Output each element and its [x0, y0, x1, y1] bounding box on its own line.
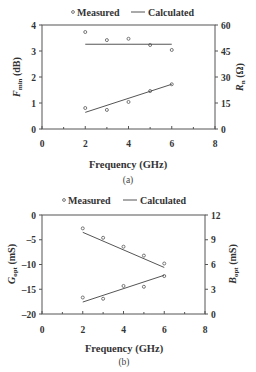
x-tick-label: 6	[169, 139, 174, 149]
x-tick-label: 2	[80, 325, 85, 335]
measured-point	[102, 236, 105, 239]
measured-point	[102, 297, 105, 300]
calculated-line	[85, 84, 172, 112]
y-right-tick-label: 30	[221, 73, 231, 83]
measured-point	[105, 39, 108, 42]
y-axis-left-label: Gopt (mS)	[6, 244, 19, 284]
measured-point	[122, 245, 125, 248]
legend-measured-label: Measured	[77, 7, 120, 18]
y-axis-left-label: Fmin (dB)	[11, 57, 24, 98]
measured-point	[163, 262, 166, 265]
y-left-tick-label: –5	[26, 235, 37, 245]
y-right-tick-label: 6	[211, 260, 216, 270]
axis-tick-labels: 02468–20–15–10–50036912	[21, 211, 221, 336]
y-right-tick-label: 15	[221, 99, 231, 109]
x-tick-label: 0	[40, 139, 45, 149]
y-left-tick-label: 3	[31, 47, 36, 57]
x-axis-label: Frequency (GHz)	[85, 343, 164, 355]
y-left-tick-label: –20	[21, 310, 37, 320]
y-axis-right-label: Bopt (mS)	[227, 244, 240, 284]
panel-caption: (a)	[123, 175, 134, 186]
y-left-tick-label: 1	[31, 99, 36, 109]
y-right-tick-label: 60	[221, 21, 231, 31]
legend-measured-marker-icon	[63, 199, 66, 202]
x-tick-label: 2	[83, 139, 88, 149]
measured-point	[105, 108, 108, 111]
x-tick-label: 8	[213, 139, 218, 149]
legend: Measured Calculated	[72, 7, 195, 18]
measured-point	[142, 254, 145, 257]
legend-measured-label: Measured	[68, 195, 111, 206]
y-left-tick-label: 0	[31, 211, 36, 221]
y-left-tick-label: 2	[31, 73, 36, 83]
y-right-tick-label: 0	[221, 125, 226, 135]
panel-caption: (b)	[118, 357, 129, 368]
measured-point	[127, 100, 130, 103]
y-axis-right-label: Rn (Ω)	[234, 63, 247, 92]
calculated-line	[83, 275, 165, 302]
chart-panel-a: Measured Calculated 0246801234015304560 …	[11, 7, 247, 187]
measured-point	[142, 285, 145, 288]
axis-ticks	[39, 215, 208, 314]
axis-tick-labels: 0246801234015304560	[31, 21, 231, 150]
measured-point	[122, 284, 125, 287]
x-axis-label: Frequency (GHz)	[89, 159, 168, 171]
chart-panel-b: Measured Calculated 02468–20–15–10–50036…	[6, 195, 240, 369]
measured-point	[81, 296, 84, 299]
y-left-tick-label: –15	[21, 285, 37, 295]
plot-frame	[42, 215, 205, 314]
legend-calculated-label: Calculated	[140, 195, 187, 206]
legend-measured-marker-icon	[72, 11, 75, 14]
y-right-tick-label: 0	[211, 310, 216, 320]
legend: Measured Calculated	[63, 195, 187, 206]
y-right-tick-label: 3	[211, 285, 216, 295]
figure: Measured Calculated 0246801234015304560 …	[0, 0, 256, 372]
measured-point	[170, 48, 173, 51]
calculated-line	[83, 232, 165, 267]
y-left-tick-label: –10	[21, 260, 37, 270]
y-right-tick-label: 9	[211, 235, 216, 245]
y-left-tick-label: 4	[31, 21, 36, 31]
x-tick-label: 4	[126, 139, 131, 149]
y-right-tick-label: 12	[211, 211, 221, 221]
x-tick-label: 4	[121, 325, 126, 335]
y-right-tick-label: 45	[221, 47, 231, 57]
y-left-tick-label: 0	[31, 125, 36, 135]
measured-point	[127, 37, 130, 40]
measured-point	[81, 227, 84, 230]
legend-calculated-label: Calculated	[148, 7, 195, 18]
x-tick-label: 8	[203, 325, 208, 335]
measured-point	[84, 31, 87, 34]
x-tick-label: 0	[40, 325, 45, 335]
data-series	[81, 227, 166, 302]
x-tick-label: 6	[162, 325, 167, 335]
data-series	[84, 31, 174, 113]
measured-point	[84, 107, 87, 110]
